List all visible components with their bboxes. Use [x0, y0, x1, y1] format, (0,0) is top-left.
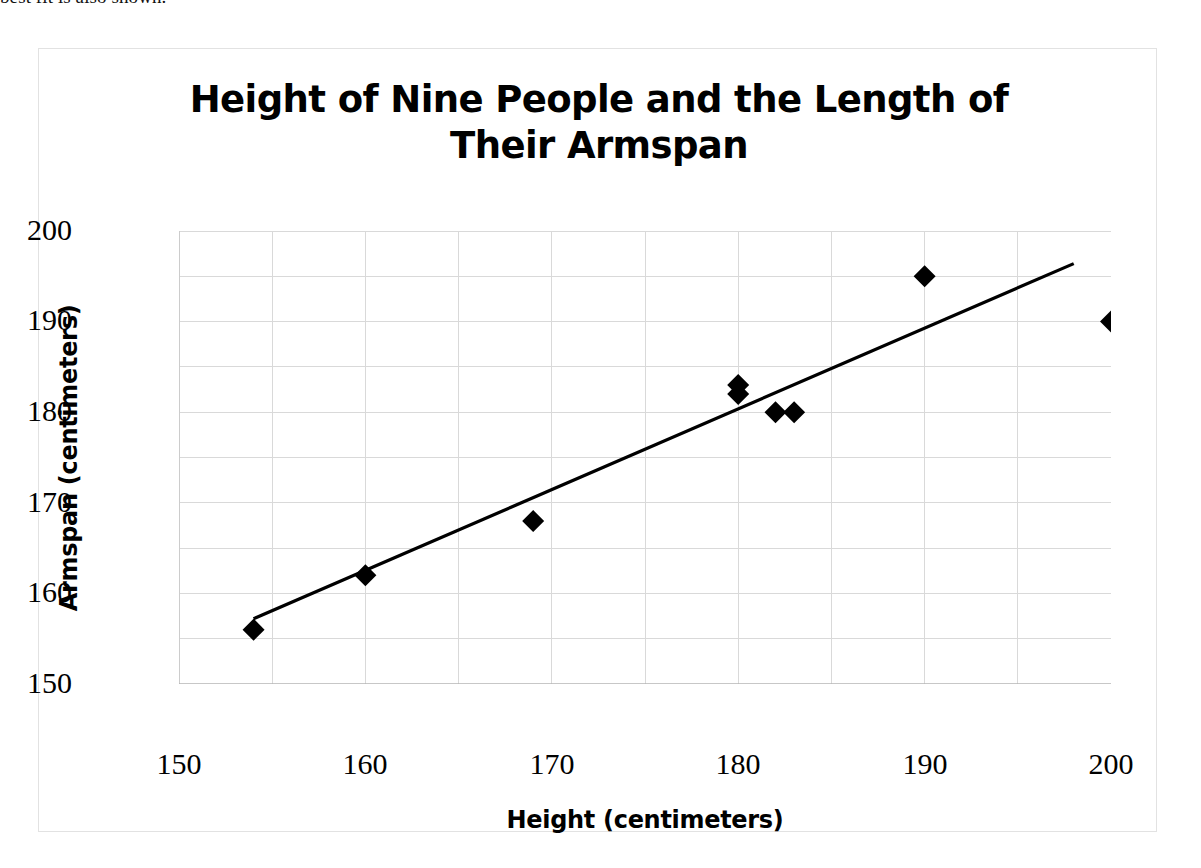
y-axis-title: Armspan (centimeters) [55, 304, 83, 611]
y-axis-title-wrap: Armspan (centimeters) [39, 231, 99, 684]
page-caption-text: best fit is also shown. [0, 0, 166, 8]
chart-data-layer [179, 231, 1111, 684]
page-caption-strip: best fit is also shown. [0, 0, 1201, 16]
chart-title-line-2: Their Armspan [149, 123, 1049, 169]
chart-title: Height of Nine People and the Length of … [149, 77, 1049, 169]
x-tick-label-190: 190 [865, 749, 985, 779]
plot-area [179, 231, 1111, 684]
chart-title-line-1: Height of Nine People and the Length of [149, 77, 1049, 123]
x-tick-label-200: 200 [1051, 749, 1171, 779]
x-tick-label-170: 170 [492, 749, 612, 779]
x-tick-label-180: 180 [678, 749, 798, 779]
x-tick-label-150: 150 [119, 749, 239, 779]
x-axis-title: Height (centimeters) [179, 806, 1111, 834]
x-tick-label-160: 160 [305, 749, 425, 779]
chart-frame: Height of Nine People and the Length of … [38, 48, 1157, 832]
